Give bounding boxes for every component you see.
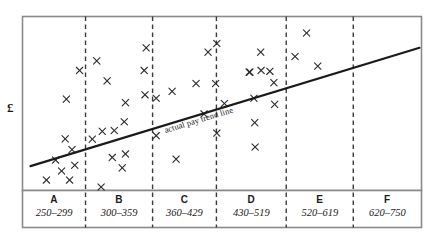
category-label-b: B300–359 [86, 194, 153, 219]
category-letter-d: D [216, 194, 286, 206]
category-letter-c: C [153, 194, 217, 206]
category-range-c: 360–429 [153, 206, 217, 219]
category-label-a: A250–299 [23, 194, 86, 219]
category-range-a: 250–299 [23, 206, 86, 219]
category-letter-e: E [286, 194, 353, 206]
category-letter-f: F [353, 194, 421, 206]
y-axis-label: £ [7, 101, 14, 114]
category-range-e: 520–619 [286, 206, 353, 219]
category-letter-b: B [86, 194, 153, 206]
category-label-c: C360–429 [153, 194, 217, 219]
category-label-e: E520–619 [286, 194, 353, 219]
category-letter-a: A [23, 194, 86, 206]
pay-scatter-chart: £ actual pay trend line A250–299B300–359… [0, 0, 429, 238]
plot-area-frame [23, 17, 422, 191]
category-label-f: F620–750 [353, 194, 421, 219]
category-range-f: 620–750 [353, 206, 421, 219]
category-range-b: 300–359 [86, 206, 153, 219]
category-label-d: D430–519 [216, 194, 286, 219]
category-range-d: 430–519 [216, 206, 286, 219]
